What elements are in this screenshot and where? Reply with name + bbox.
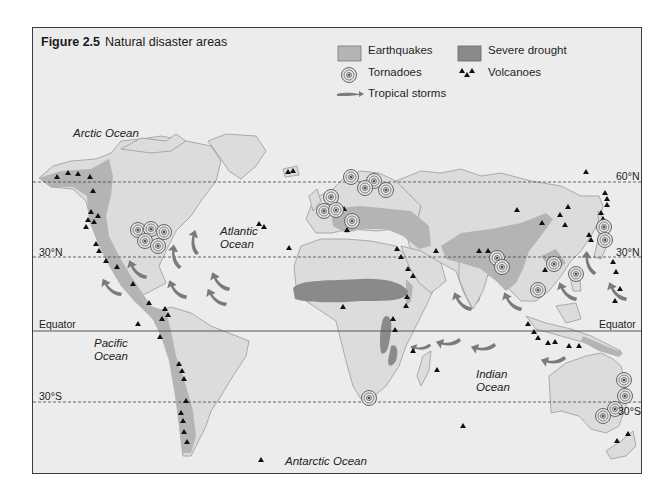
lat-label-30n-left: 30°N	[39, 246, 62, 258]
drought-swatch	[458, 46, 481, 61]
lat-label-30n-right: 30°N	[616, 246, 639, 258]
lat-label-60n: 60°N	[616, 170, 639, 182]
legend-volcanoes: Volcanoes	[488, 66, 541, 78]
figure-title: Figure 2.5Natural disaster areas	[41, 35, 227, 49]
figure-frame: Figure 2.5Natural disaster areas Earthqu…	[32, 27, 642, 474]
land-madagascar	[417, 351, 431, 386]
lat-label-equator-right: Equator	[599, 318, 636, 330]
legend-earthquakes-label: Earthquakes	[368, 44, 433, 56]
lat-label-30s-right: 30°S	[618, 405, 641, 417]
land-australia	[549, 353, 626, 433]
legend-tropical-storms: Tropical storms	[368, 87, 446, 99]
legend-severe-drought: Severe drought	[488, 44, 567, 56]
pacific-line1: Pacific	[94, 337, 128, 350]
antarctic-ocean-label: Antarctic Ocean	[285, 455, 367, 468]
figure-number: Figure 2.5	[41, 35, 100, 49]
figure-caption: Natural disaster areas	[105, 35, 227, 49]
pacific-ocean-label: PacificOcean	[94, 337, 128, 363]
legend-storms-label: Tropical storms	[368, 87, 446, 99]
lat-label-30s-left: 30°S	[39, 390, 62, 402]
atlantic-line1: Atlantic	[220, 225, 258, 238]
arctic-ocean-label: Arctic Ocean	[73, 127, 139, 140]
legend-tornadoes: Tornadoes	[368, 66, 422, 78]
land-borneo	[556, 303, 581, 323]
storm-legend-icon	[337, 91, 364, 97]
drought-zone-sahel	[293, 279, 408, 302]
indian-line1: Indian	[476, 368, 510, 381]
earthquake-swatch	[338, 46, 361, 61]
indian-line2: Ocean	[476, 381, 510, 394]
atlantic-line2: Ocean	[220, 238, 258, 251]
legend-drought-label: Severe drought	[488, 44, 567, 56]
lat-label-equator-left: Equator	[39, 318, 76, 330]
legend-tornadoes-label: Tornadoes	[368, 66, 422, 78]
atlantic-ocean-label: AtlanticOcean	[220, 225, 258, 251]
land-north-america	[39, 136, 221, 296]
volcano-legend-icon	[459, 68, 475, 77]
pacific-line2: Ocean	[94, 350, 128, 363]
land-new-zealand	[606, 431, 636, 459]
legend-volcanoes-label: Volcanoes	[488, 66, 541, 78]
legend-earthquakes: Earthquakes	[368, 44, 433, 56]
indian-ocean-label: IndianOcean	[476, 368, 510, 394]
world-map	[33, 28, 642, 474]
tornado-legend-icon	[342, 68, 357, 83]
